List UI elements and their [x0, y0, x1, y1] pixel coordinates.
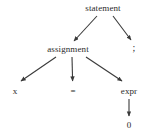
node-semicolon: ; — [133, 43, 136, 53]
edge-assignment-expr — [86, 57, 122, 81]
edge-statement-assignment — [74, 16, 97, 41]
edge-assignment-x — [21, 57, 56, 81]
edge-statement-semicolon — [113, 16, 131, 40]
node-x: x — [13, 86, 18, 96]
tree-edges-svg — [0, 0, 155, 140]
node-expr: expr — [121, 86, 137, 96]
node-equals: = — [70, 86, 75, 96]
node-assignment: assignment — [47, 44, 89, 54]
edge-assignment-equals — [72, 57, 73, 81]
parse-tree-diagram: statement assignment ; x = expr 0 — [0, 0, 155, 140]
node-statement: statement — [85, 3, 120, 13]
node-zero: 0 — [127, 120, 132, 130]
